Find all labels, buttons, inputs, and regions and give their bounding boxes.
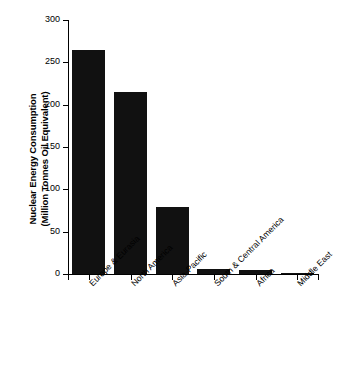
y-axis-tick-label: 250 — [36, 56, 60, 67]
y-axis-tick: 200 — [63, 105, 68, 106]
y-axis-title-line-1: Nuclear Energy Consumption — [27, 44, 39, 274]
y-axis-tick-label: 0 — [36, 268, 60, 279]
y-axis-tick: 50 — [63, 232, 68, 233]
y-axis-title-line-2: (Million Tonnes Oil Equivalent) — [39, 44, 51, 274]
bar — [156, 207, 189, 274]
x-axis-tick — [68, 275, 69, 280]
y-axis-tick: 250 — [63, 62, 68, 63]
y-axis-tick: 150 — [63, 147, 68, 148]
x-axis-labels: Europe & EurasiaNorth AmericaAsia-Pacifi… — [68, 281, 338, 381]
y-axis-tick: 300 — [63, 20, 68, 21]
y-axis-tick-label: 300 — [36, 14, 60, 25]
bar-chart: Nuclear Energy Consumption (Million Tonn… — [0, 0, 338, 382]
x-axis-tick — [318, 275, 319, 280]
y-axis-tick-label: 50 — [36, 226, 60, 237]
y-axis-line — [68, 20, 69, 275]
y-axis-tick-label: 150 — [36, 141, 60, 152]
y-axis-tick-label: 100 — [36, 183, 60, 194]
y-axis-title: Nuclear Energy Consumption (Million Tonn… — [27, 44, 51, 274]
y-axis-tick: 100 — [63, 189, 68, 190]
bar — [72, 50, 105, 274]
y-axis-tick-label: 200 — [36, 99, 60, 110]
plot-area: 050100150200250300 — [68, 20, 318, 274]
